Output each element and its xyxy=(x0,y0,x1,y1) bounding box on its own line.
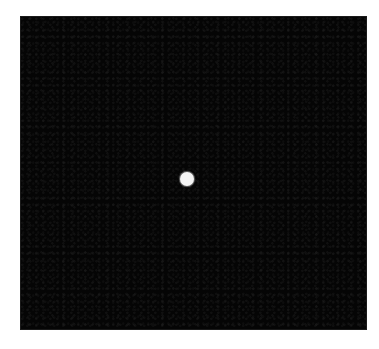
white-dot xyxy=(180,172,194,186)
dark-field xyxy=(21,17,366,329)
noise-texture xyxy=(21,17,366,329)
